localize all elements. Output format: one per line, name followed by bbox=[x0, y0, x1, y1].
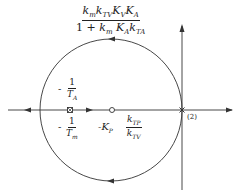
upper-pole-label: 1 TA bbox=[67, 78, 77, 101]
zero-marker bbox=[110, 108, 115, 113]
gain-denominator: 1 + km KAkTA bbox=[76, 21, 145, 36]
lower-pole-label: 1 Tm bbox=[66, 117, 78, 140]
upper-pole-sign: - bbox=[58, 84, 61, 94]
real-axis-arrow-icon bbox=[226, 108, 233, 113]
zero-label-prefix: -KP bbox=[98, 122, 113, 134]
origin-multiplicity-label: (2) bbox=[187, 114, 197, 121]
bottom-direction-arrow-icon bbox=[107, 179, 114, 184]
top-direction-arrow-icon bbox=[108, 37, 115, 42]
zero-label-fraction: kTP kTV bbox=[126, 115, 142, 140]
imaginary-axis-arrow-icon bbox=[180, 24, 185, 32]
gain-expression: kmkTVKVKA 1 + km KAkTA bbox=[76, 5, 145, 36]
left-axis-arrow-icon bbox=[24, 108, 31, 113]
gain-numerator: kmkTVKVKA bbox=[82, 5, 140, 21]
lower-pole-sign: - bbox=[58, 122, 61, 132]
pole-zero-arrow-icon bbox=[86, 108, 93, 113]
